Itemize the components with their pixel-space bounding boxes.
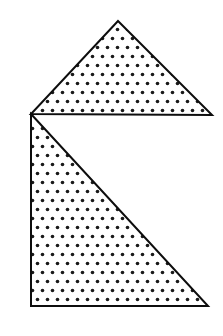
figure-canvas [0,0,223,336]
geometric-figure-svg [0,0,223,336]
